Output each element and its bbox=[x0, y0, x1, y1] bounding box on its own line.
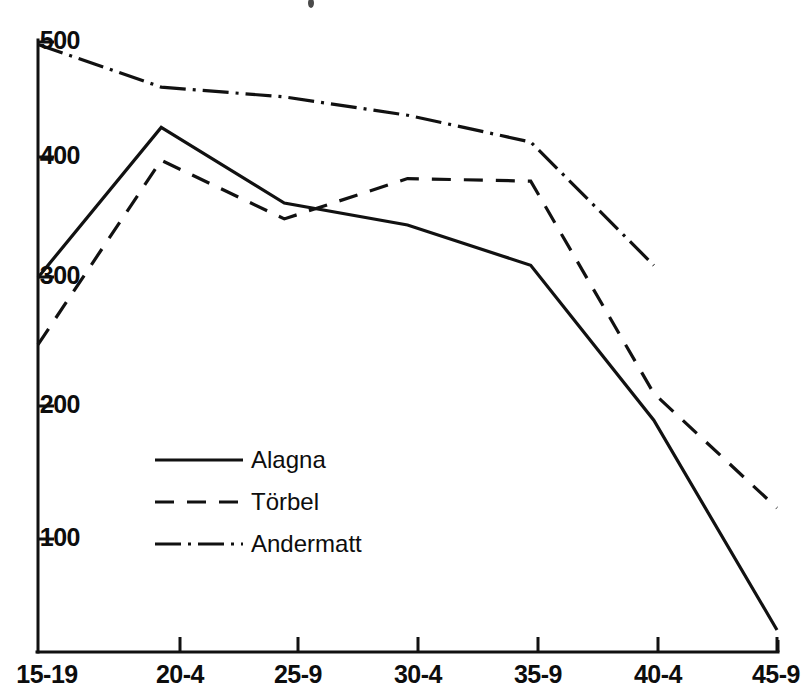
x-tick-label-40-4: 40-4 bbox=[598, 660, 718, 689]
series-line-alagna bbox=[38, 127, 777, 630]
x-tick-label-35-9: 35-9 bbox=[478, 660, 598, 689]
x-tick-label-45-9: 45-9 bbox=[716, 660, 805, 689]
legend-label-torbel: Törbel bbox=[251, 488, 319, 516]
y-tick-label-500: 500 bbox=[10, 26, 80, 55]
legend-swatches bbox=[155, 460, 243, 544]
y-tick-label-400: 400 bbox=[10, 141, 80, 170]
x-tick-label-15-19: 15-19 bbox=[0, 660, 107, 689]
x-tick-label-30-4: 30-4 bbox=[358, 660, 478, 689]
legend-label-alagna: Alagna bbox=[251, 446, 326, 474]
y-tick-label-200: 200 bbox=[10, 390, 80, 419]
x-tick-label-20-4: 20-4 bbox=[120, 660, 240, 689]
x-tick-label-25-9: 25-9 bbox=[238, 660, 358, 689]
legend-label-andermatt: Andermatt bbox=[251, 530, 362, 558]
scan-speck bbox=[308, 0, 314, 8]
y-tick-marks bbox=[38, 42, 54, 539]
y-tick-label-100: 100 bbox=[10, 523, 80, 552]
series-line-andermatt bbox=[38, 44, 654, 265]
x-tick-marks bbox=[180, 637, 777, 652]
y-tick-label-300: 300 bbox=[10, 261, 80, 290]
series-line-torbel bbox=[38, 160, 777, 508]
